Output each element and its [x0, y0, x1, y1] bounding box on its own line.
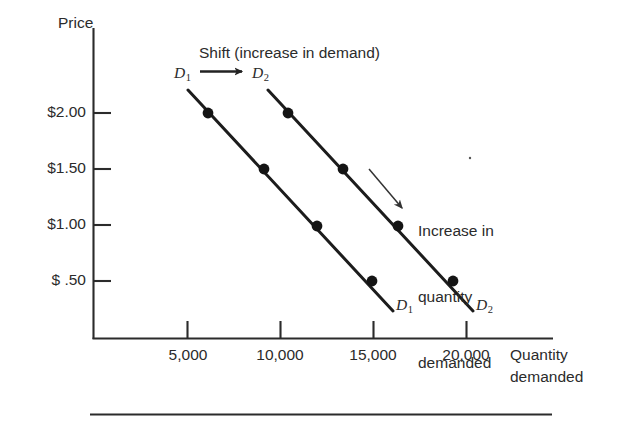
curve-label-d2-letter: D: [476, 296, 487, 313]
shift-from-label: D1: [174, 64, 190, 82]
y-tick-label-2-00: $2.00: [14, 103, 86, 121]
shift-from-letter: D: [174, 64, 185, 81]
x-tick-label-5000: 5,000: [143, 346, 233, 364]
y-tick-label-1-00: $1.00: [14, 215, 86, 233]
shift-to-letter: D: [252, 64, 263, 81]
x-axis-title-line2: demanded: [510, 368, 583, 386]
x-tick-label-10000: 10,000: [235, 346, 325, 364]
increase-line-1: Increase in: [418, 220, 494, 242]
y-tick-label-0-50: $ .50: [14, 271, 86, 289]
y-axis-title: Price: [58, 14, 93, 32]
curve-label-d1-subscript: 1: [408, 304, 413, 315]
shift-title-label: Shift (increase in demand): [199, 44, 380, 62]
x-axis-title-line1: Quantity: [510, 346, 568, 364]
demand-curve-figure: Price $2.00 $1.50 $1.00 $ .50 5,000 10,0…: [0, 0, 634, 426]
data-point-d1-4: [367, 276, 378, 287]
shift-to-label: D2: [252, 64, 268, 82]
curve-label-d2-subscript: 2: [488, 304, 493, 315]
data-point-d1-2: [259, 164, 270, 175]
print-speck: [469, 157, 471, 159]
y-axis: [94, 28, 112, 339]
shift-from-subscript: 1: [186, 72, 191, 83]
curve-label-d1-letter: D: [396, 296, 407, 313]
curve-label-d1: D1: [396, 296, 412, 314]
shift-to-subscript: 2: [264, 72, 269, 83]
increase-line-3: demanded: [418, 352, 494, 374]
x-tick-label-15000: 15,000: [328, 346, 418, 364]
data-point-d2-2: [338, 164, 349, 175]
y-tick-label-1-50: $1.50: [14, 159, 86, 177]
data-point-d2-1: [283, 108, 294, 119]
data-point-d2-3: [393, 221, 404, 232]
demand-curve-d1: [188, 90, 393, 311]
curve-label-d2: D2: [476, 296, 492, 314]
data-point-d1-1: [203, 108, 214, 119]
data-point-d1-3: [312, 221, 323, 232]
